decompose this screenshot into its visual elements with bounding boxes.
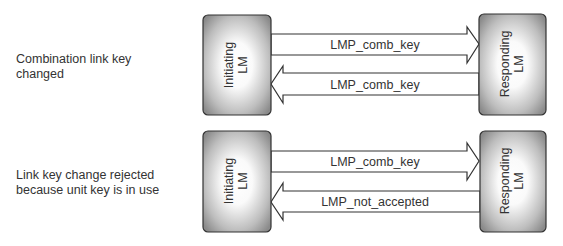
initiating-lm-label-1-line-1: Initiating [222, 42, 236, 89]
responding-lm-label-1-line-1: Responding [498, 31, 512, 98]
initiating-lm-label-2-line-1: Initiating [222, 158, 236, 205]
message-arrow-1-return: LMP_comb_key [271, 66, 479, 103]
responding-lm-label-2-line-1: Responding [498, 148, 512, 215]
initiating-lm-box-1: Initiating LM [203, 15, 271, 115]
message-label-1-forward: LMP_comb_key [330, 38, 420, 52]
message-arrow-2-return: LMP_not_accepted [271, 183, 480, 220]
message-label-2-forward: LMP_comb_key [330, 155, 420, 169]
message-arrow-1-forward: LMP_comb_key [271, 27, 479, 63]
initiating-lm-label-2-line-2: LM [236, 172, 250, 189]
responding-lm-label-2-line-2: LM [512, 172, 526, 189]
scenario-2: LMP_comb_key LMP_not_accepted Initiating… [203, 131, 546, 232]
initiating-lm-box-2: Initiating LM [203, 131, 271, 232]
message-arrow-2-forward: LMP_comb_key [271, 143, 479, 180]
scenario-1: LMP_comb_key LMP_comb_key Initiating LM … [203, 14, 546, 115]
sequence-diagram: LMP_comb_key LMP_comb_key Initiating LM … [0, 0, 563, 246]
initiating-lm-label-1-line-2: LM [236, 56, 250, 73]
responding-lm-label-1-line-2: LM [512, 55, 526, 72]
message-label-2-return: LMP_not_accepted [321, 195, 429, 209]
responding-lm-box-1: Responding LM [479, 14, 546, 115]
responding-lm-box-2: Responding LM [480, 131, 546, 232]
message-label-1-return: LMP_comb_key [330, 78, 420, 92]
